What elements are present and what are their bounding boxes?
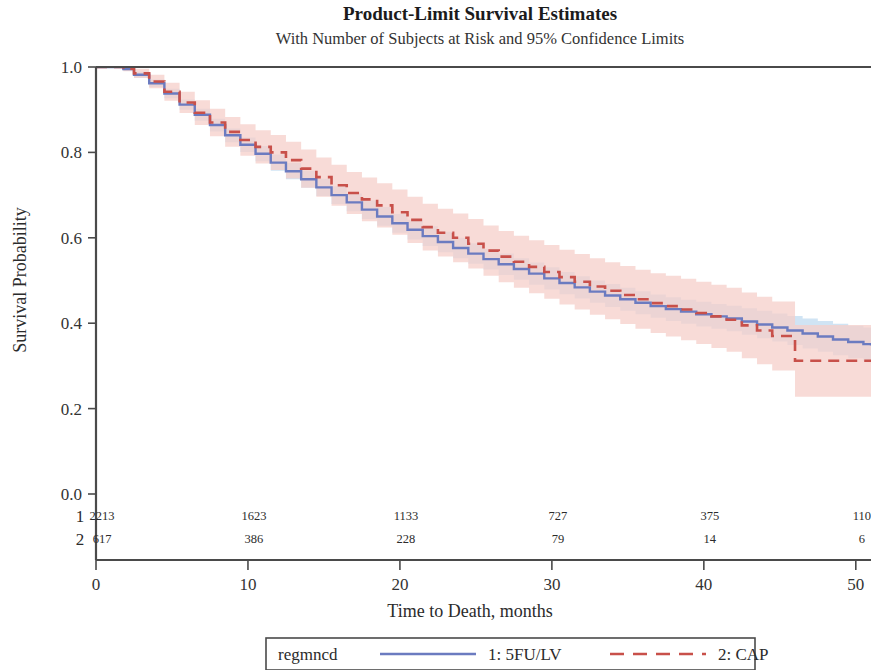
legend-label-2: 2: CAP	[718, 645, 769, 664]
legend-title: regmncd	[278, 645, 338, 664]
risk-count: 1623	[241, 509, 266, 523]
risk-count: 228	[397, 532, 416, 546]
risk-count: 727	[549, 509, 568, 523]
risk-row-label: 1	[76, 507, 85, 526]
y-tick-label: 0.0	[61, 485, 82, 504]
risk-count: 6	[859, 532, 865, 546]
legend-label-1: 1: 5FU/LV	[488, 645, 562, 664]
y-tick-label: 0.8	[61, 143, 82, 162]
x-tick-label: 50	[847, 575, 864, 594]
survival-chart: Product-Limit Survival Estimates With Nu…	[0, 0, 871, 670]
risk-count: 1133	[394, 509, 419, 523]
y-tick-label: 0.6	[61, 229, 82, 248]
x-tick-label: 40	[695, 575, 712, 594]
x-tick-label: 10	[239, 575, 256, 594]
risk-count: 110	[853, 509, 871, 523]
chart-subtitle: With Number of Subjects at Risk and 95% …	[276, 29, 685, 48]
chart-title: Product-Limit Survival Estimates	[343, 3, 617, 24]
risk-count: 617	[93, 532, 112, 546]
y-axis-title: Survival Probability	[10, 207, 30, 353]
x-tick-label: 20	[391, 575, 408, 594]
y-tick-label: 0.4	[61, 314, 83, 333]
y-tick-label: 0.2	[61, 400, 82, 419]
y-tick-label: 1.0	[61, 58, 82, 77]
x-tick-label: 30	[543, 575, 560, 594]
risk-count: 386	[245, 532, 264, 546]
risk-count: 2213	[90, 509, 115, 523]
risk-count: 79	[552, 532, 565, 546]
risk-count: 14	[704, 532, 717, 546]
risk-count: 375	[700, 509, 719, 523]
x-axis-title: Time to Death, months	[387, 601, 552, 621]
x-tick-label: 0	[92, 575, 101, 594]
risk-row-label: 2	[76, 530, 85, 549]
